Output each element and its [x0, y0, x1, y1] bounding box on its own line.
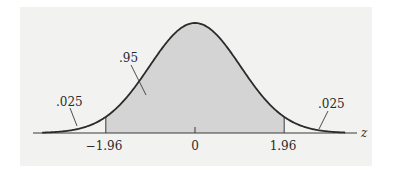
tick-label-pos: 1.96 [270, 139, 297, 153]
left-tail-area-label: .025 [56, 95, 83, 109]
center-area-label: .95 [119, 51, 138, 65]
tick-label-neg: −1.96 [86, 139, 123, 153]
axis-variable-label: z [360, 126, 368, 140]
normal-curve-figure: .025 .95 .025 z −1.96 0 1.96 [0, 0, 396, 171]
left-tail-leader [70, 108, 77, 126]
right-tail-leader [319, 111, 328, 129]
shaded-95-region [106, 23, 284, 133]
tick-label-zero: 0 [191, 139, 199, 153]
right-tail-area-label: .025 [318, 97, 345, 111]
